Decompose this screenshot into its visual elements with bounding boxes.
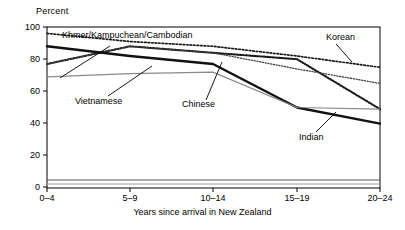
series-label-korean: Korean (326, 32, 355, 42)
chart-figure: Percent 100 80 60 40 20 0 0–4 5–9 10–14 … (0, 0, 405, 230)
y-tick-marks (43, 27, 47, 187)
series-label-khmer: Khmer/Kampuchean/Cambodian (62, 30, 193, 40)
series-label-vietnamese: Vietnamese (75, 96, 122, 106)
x-tick-marks (47, 188, 380, 192)
series-line-chinese (47, 46, 380, 123)
series-label-indian: Indian (299, 132, 324, 142)
series-label-chinese: Chinese (182, 99, 215, 109)
